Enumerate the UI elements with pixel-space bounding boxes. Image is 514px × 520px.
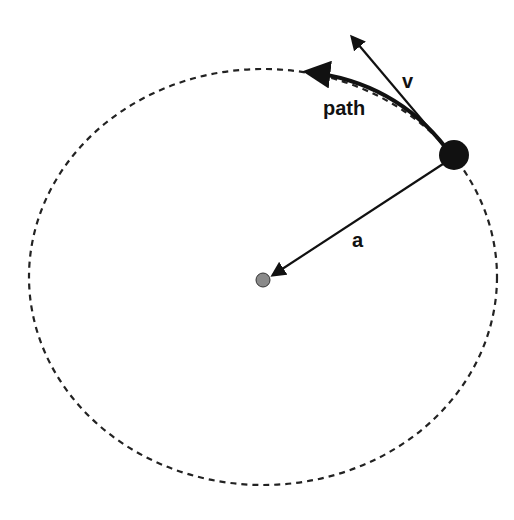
circular-motion-diagram: v path a (0, 0, 514, 520)
acceleration-label: a (352, 229, 364, 251)
path-label: path (323, 97, 365, 119)
orbiting-object (439, 140, 469, 170)
acceleration-arrow (273, 162, 446, 275)
center-point (256, 273, 270, 287)
velocity-label: v (402, 70, 414, 92)
velocity-arrow (352, 37, 444, 146)
